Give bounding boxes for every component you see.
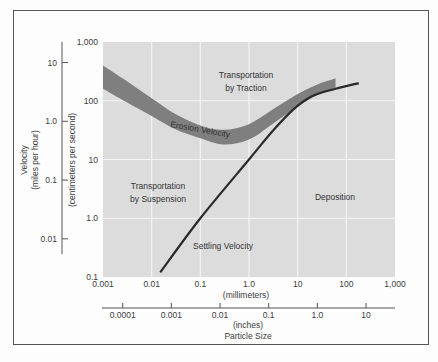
x-tick-label-inch: 1.0 (311, 310, 323, 320)
y-axis-cm-ticks: 0.11.0101001,000 (77, 37, 99, 282)
y-axis-cm-title: (centimeters per second) (67, 113, 77, 207)
x-tick-label-inch: 10 (361, 310, 371, 320)
region-traction-label: Transportation (219, 70, 274, 80)
x-tick-label: 0.01 (143, 279, 160, 289)
x-tick-label-inch: 0.0001 (110, 310, 136, 320)
hjulstrom-chart: Transportation by Traction Transportatio… (0, 0, 438, 362)
x-tick-label: 0.001 (92, 279, 114, 289)
x-tick-label: 100 (339, 279, 353, 289)
x-axis-mm-title: (millimeters) (223, 290, 269, 300)
x-axis-title: Particle Size (224, 331, 272, 341)
x-tick-label: 0.1 (194, 279, 206, 289)
x-tick-label: 1.0 (243, 279, 255, 289)
region-suspension-label: Transportation (131, 181, 186, 191)
x-tick-label-inch: 0.1 (263, 310, 275, 320)
x-tick-label: 10 (293, 279, 303, 289)
settling-velocity-label: Settling Velocity (193, 241, 254, 251)
y-tick-label-mph: 1.0 (45, 116, 57, 126)
x-axis-inch-title: (inches) (233, 320, 263, 330)
region-traction-label-2: by Traction (225, 83, 267, 93)
y-tick-label: 10 (89, 155, 99, 165)
y-axis-mph-subtitle: (miles per hour) (30, 130, 40, 190)
y-tick-label-mph: 0.1 (45, 175, 57, 185)
x-axis-mm-ticks: 0.0010.010.11.0101001,000 (92, 279, 406, 289)
y-tick-label: 100 (84, 96, 98, 106)
y-axis-mph-title: Velocity (19, 145, 29, 175)
y-axis-mph-ticks: 0.010.11.010 (40, 58, 68, 244)
y-tick-label: 1.0 (86, 213, 98, 223)
y-tick-label: 1,000 (77, 37, 99, 47)
y-tick-label-mph: 0.01 (40, 234, 57, 244)
x-tick-label-inch: 0.01 (212, 310, 229, 320)
region-suspension-label-2: by Suspension (130, 194, 186, 204)
y-tick-label-mph: 10 (48, 58, 58, 68)
x-tick-label: 1,000 (384, 279, 406, 289)
region-deposition-label: Deposition (315, 192, 355, 202)
x-tick-label-inch: 0.001 (161, 310, 183, 320)
x-axis-inch-ticks: 0.00010.0010.010.11.010 (110, 303, 371, 320)
